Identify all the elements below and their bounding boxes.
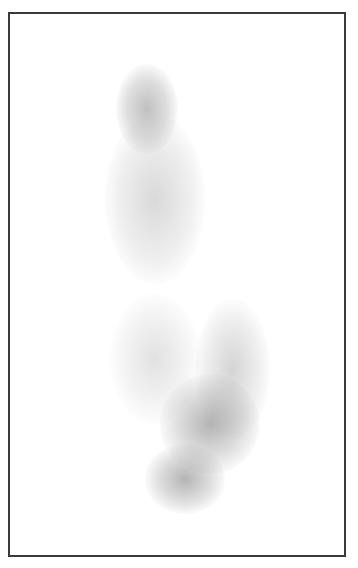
- uptake-region-upper-body: [105, 114, 205, 284]
- image-frame: [8, 12, 346, 557]
- uptake-region-bottom: [145, 444, 225, 514]
